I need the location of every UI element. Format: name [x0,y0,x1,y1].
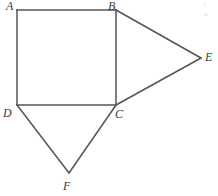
geometry-figure: A B E D C F l a [0,0,218,196]
triangle-DCF [17,105,116,173]
vertex-label-a: A [6,0,13,12]
square-ABCD [17,10,116,105]
vertex-label-c: C [115,108,123,120]
edge-CF [69,105,116,173]
edge-BE [116,10,201,58]
vertex-label-e: E [205,51,212,63]
geometry-canvas [0,0,218,196]
margin-text-fragment: l a [204,1,218,19]
vertex-label-f: F [63,180,70,192]
edge-DF [17,105,69,173]
edge-CE [116,58,201,105]
triangle-BCE [116,10,201,105]
margin-text-line-2: a [204,10,218,19]
margin-text-line-1: l [204,1,218,10]
vertex-label-b: B [108,0,115,12]
vertex-label-d: D [3,107,12,119]
